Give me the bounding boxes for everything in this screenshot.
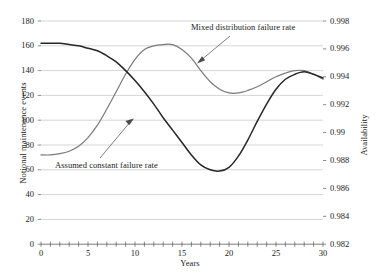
- x-axis-tick-label: 30: [311, 248, 335, 258]
- y-axis-left-tick-label: 180: [4, 16, 34, 26]
- x-axis-tick-label: 25: [264, 248, 288, 258]
- gridlines: [41, 21, 323, 219]
- y-axis-left-tick-label: 0: [4, 239, 34, 249]
- x-axis-tick-label: 20: [217, 248, 241, 258]
- chart-container: 020406080100120140160180 0.9820.9840.986…: [0, 0, 379, 280]
- y-axis-right-tick-label: 0.996: [330, 43, 370, 53]
- series-line-mixed-distribution: [41, 44, 323, 155]
- x-axis-tick-label: 15: [170, 248, 194, 258]
- annotation-arrows: [100, 36, 230, 158]
- series-line-assumed-constant: [41, 43, 323, 171]
- x-axis-title: Years: [155, 258, 225, 268]
- chart-plot-area: [0, 0, 379, 280]
- y-axis-left-ticks: [38, 21, 41, 244]
- arrow-mixed-distribution: [197, 36, 230, 64]
- y-axis-right-tick-label: 0.984: [330, 211, 370, 221]
- y-axis-right-ticks: [323, 21, 326, 244]
- annotation-assumed-constant-failure-rate: Assumed constant failure rate: [55, 160, 158, 170]
- y-axis-left-tick-label: 160: [4, 40, 34, 50]
- x-axis-tick-label: 10: [123, 248, 147, 258]
- y-axis-left-tick-label: 20: [4, 214, 34, 224]
- y-axis-right-title: Availability: [359, 75, 369, 195]
- x-axis-tick-label: 5: [76, 248, 100, 258]
- y-axis-left-title: Notional maintenance events: [18, 58, 28, 208]
- arrow-assumed-constant: [100, 119, 134, 159]
- y-axis-right-tick-label: 0.982: [330, 239, 370, 249]
- x-axis-tick-label: 0: [29, 248, 53, 258]
- annotation-mixed-distribution-failure-rate: Mixed distribution failure rate: [191, 22, 295, 32]
- y-axis-right-tick-label: 0.998: [330, 16, 370, 26]
